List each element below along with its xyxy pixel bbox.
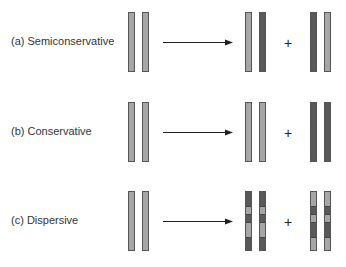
new-segment [260,214,265,222]
row-label-b: (b) Conservative [11,126,92,137]
parental-segment [260,206,265,214]
parental-segment [325,214,330,222]
daughter1-strand [245,12,252,72]
new-segment [260,192,265,206]
new-segment [311,222,316,237]
parental-segment [311,214,316,222]
daughter2-strand [324,191,331,251]
daughter2-strand [310,102,317,162]
parent-strand [128,12,135,72]
daughter1-strand [259,12,266,72]
daughter2-strand [310,191,317,251]
daughter2-strand [324,12,331,72]
parental-segment [311,192,316,206]
new-segment [246,237,251,251]
row-label-c: (c) Dispersive [11,215,78,226]
parent-strand [128,102,135,162]
new-segment [325,206,330,214]
daughter1-strand [245,102,252,162]
new-segment [246,192,251,206]
plus-sign: + [284,126,292,140]
daughter2-strand [310,12,317,72]
daughter1-strand [245,191,252,251]
parental-segment [325,237,330,251]
parent-strand [142,191,149,251]
plus-sign: + [284,36,292,50]
arrow-right-icon [163,39,233,46]
parental-segment [311,237,316,251]
daughter1-strand [259,102,266,162]
parental-segment [325,192,330,206]
new-segment [246,214,251,222]
row-label-a: (a) Semiconservative [11,36,114,47]
daughter1-strand [259,191,266,251]
new-segment [260,237,265,251]
daughter2-strand [324,102,331,162]
parent-strand [128,191,135,251]
plus-sign: + [284,215,292,229]
parent-strand [142,102,149,162]
arrow-right-icon [163,218,233,225]
parent-strand [142,12,149,72]
parental-segment [260,222,265,237]
parental-segment [246,222,251,237]
parental-segment [246,206,251,214]
arrow-right-icon [163,129,233,136]
new-segment [311,206,316,214]
new-segment [325,222,330,237]
